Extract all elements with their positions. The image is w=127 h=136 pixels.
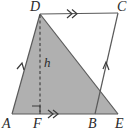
- vertex-label-D: D: [30, 0, 40, 14]
- segment-DC: [40, 13, 118, 14]
- vertex-label-C: C: [117, 0, 126, 14]
- vertex-label-E: E: [115, 117, 124, 131]
- vertex-label-A: A: [2, 117, 11, 131]
- parallel-mark-AD: [17, 63, 24, 70]
- figure-canvas: [0, 0, 127, 136]
- shaded-triangle-ADE: [12, 14, 118, 114]
- vertex-label-F: F: [33, 117, 42, 131]
- altitude-label-h: h: [44, 56, 51, 69]
- vertex-label-B: B: [88, 117, 97, 131]
- geometry-figure: D C A F B E h: [0, 0, 127, 136]
